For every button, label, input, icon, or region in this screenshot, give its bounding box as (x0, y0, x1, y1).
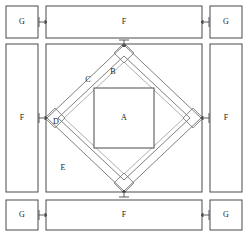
diagram-canvas: A B C D E F F F F G G G G (0, 0, 248, 234)
box-G-bottom-right-label: G (223, 210, 229, 219)
box-G-bottom-left-label: G (19, 210, 25, 219)
region-label-D: D (53, 117, 59, 126)
bar-F-top-label: F (122, 17, 127, 26)
bar-F-right-label: F (224, 113, 229, 122)
region-label-A: A (121, 113, 127, 122)
bar-F-left-label: F (20, 113, 25, 122)
box-G-top-right-label: G (223, 17, 229, 26)
region-label-B: B (110, 67, 115, 76)
box-G-top-left-label: G (19, 17, 25, 26)
region-label-C: C (85, 75, 90, 84)
bar-F-bottom-label: F (122, 210, 127, 219)
geometry-svg: A B C D E F F F F G G G G (0, 0, 248, 234)
region-label-E: E (61, 163, 66, 172)
